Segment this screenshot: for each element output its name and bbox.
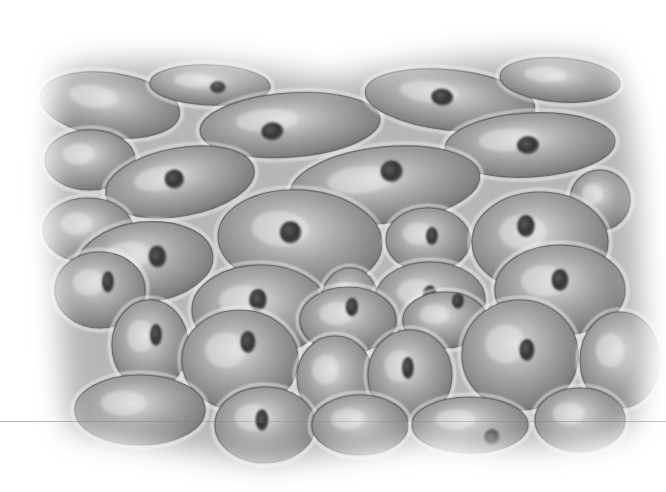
cell-nucleus — [484, 429, 499, 445]
cell-highlight — [435, 410, 476, 430]
cell-nucleus — [256, 409, 269, 430]
cell — [212, 384, 318, 466]
cell-highlight — [485, 325, 526, 364]
cell-highlight — [63, 144, 95, 165]
cell-nucleus — [519, 339, 534, 361]
cell — [532, 385, 628, 455]
cell-nucleus — [426, 227, 438, 245]
cell — [72, 372, 208, 448]
cell-highlight — [331, 409, 365, 430]
cell-nucleus — [346, 298, 358, 316]
scan-artifact-line — [0, 421, 666, 422]
cell-nucleus — [552, 269, 569, 291]
cell-nucleus — [452, 293, 464, 309]
cell-nucleus — [517, 215, 535, 237]
cell-sheet — [0, 0, 666, 492]
cell-nucleus — [240, 331, 255, 353]
cell — [309, 392, 411, 458]
cell-nucleus — [402, 357, 414, 379]
cell-nucleus — [102, 271, 114, 292]
cell-highlight — [73, 269, 105, 296]
cell-highlight — [101, 391, 147, 416]
cell-highlight — [596, 334, 624, 368]
cell-highlight — [312, 355, 339, 384]
cell-highlight — [127, 320, 154, 352]
cell-nucleus — [150, 324, 162, 346]
epithelial-cells-illustration — [0, 0, 666, 492]
cell — [409, 394, 531, 456]
cell-sheet-artwork — [0, 0, 666, 492]
cell-highlight — [61, 212, 93, 234]
cell-highlight — [420, 305, 449, 325]
cell-highlight — [205, 333, 246, 368]
